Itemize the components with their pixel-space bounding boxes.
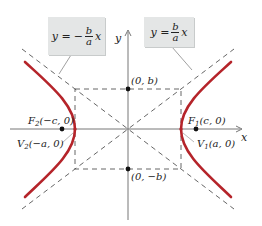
eq-denominator: a [172, 33, 178, 43]
eq-variable: x [95, 30, 101, 43]
eq-sign: − [74, 30, 83, 43]
hyperbola-diagram: y x (0, b) (0, −b) F2(−c, 0) V2(−a, 0) F… [0, 0, 262, 226]
label-v1: V1(a, 0) [197, 138, 235, 151]
eq-variable: x [181, 26, 187, 39]
point-bottom [126, 167, 131, 172]
eq-denominator: a [86, 37, 92, 47]
label-v2: V2(−a, 0) [17, 138, 64, 151]
vertex-v1 [179, 127, 182, 130]
eq-numerator: b [86, 26, 92, 36]
svg-text:F1(c, 0): F1(c, 0) [187, 115, 226, 128]
hyperbola-left-branch [25, 62, 75, 197]
hyperbola-right-branch [181, 62, 231, 197]
fraction: b a [171, 22, 179, 43]
svg-text:F2(−c, 0): F2(−c, 0) [27, 115, 74, 128]
fraction: b a [85, 26, 93, 47]
focus-f2 [60, 127, 65, 132]
point-top [126, 87, 131, 92]
svg-text:V1(a, 0): V1(a, 0) [197, 138, 235, 151]
leader-line-left [59, 55, 71, 74]
y-axis-label: y [114, 32, 122, 45]
vertex-v2 [73, 127, 76, 130]
eq-numerator: b [172, 22, 178, 32]
label-f1: F1(c, 0) [187, 115, 226, 128]
label-f2: F2(−c, 0) [27, 115, 74, 128]
asymptote-negative-equation: y = − b a x [48, 17, 105, 55]
x-axis-label: x [241, 131, 248, 144]
leader-line-v1 [183, 133, 194, 142]
svg-text:V2(−a, 0): V2(−a, 0) [17, 138, 64, 151]
asymptote-positive-equation: y = b a x [144, 17, 194, 47]
label-top: (0, b) [131, 75, 158, 86]
label-bottom: (0, −b) [131, 171, 166, 182]
eq-lhs: y = [52, 30, 71, 43]
eq-lhs: y = [150, 26, 169, 39]
leader-line-right [172, 47, 192, 70]
